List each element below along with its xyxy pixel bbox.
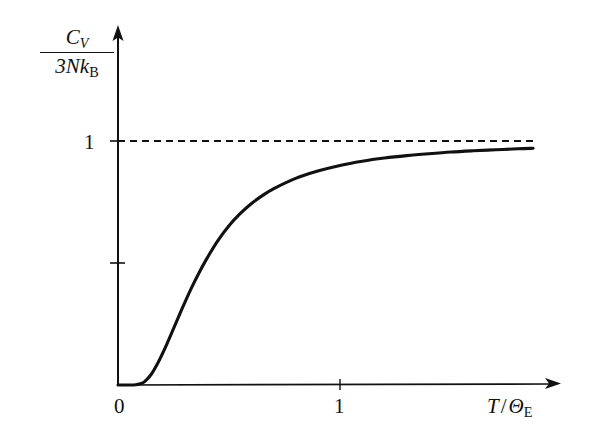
y-tick-label-1: 1 <box>84 132 95 153</box>
x-axis-label-numerator: T <box>487 394 499 418</box>
y-axis-label-numerator-subscript: V <box>80 35 89 51</box>
y-axis <box>113 25 124 385</box>
y-axis-label: CV 3NkB <box>40 27 114 79</box>
x-tick-label-0: 0 <box>114 396 125 417</box>
x-axis-label-denominator-subscript: E <box>524 404 533 420</box>
y-axis-label-denominator-subscript: B <box>89 64 99 80</box>
x-axis-label: T/ΘE <box>487 396 532 419</box>
x-axis-label-separator: / <box>499 394 509 418</box>
y-axis-label-numerator: CV <box>40 27 114 53</box>
heat-capacity-curve <box>118 148 533 385</box>
einstein-heat-capacity-figure: CV 3NkB T/ΘE 0 1 1 <box>0 0 599 440</box>
x-axis-label-denominator: Θ <box>509 394 524 418</box>
y-axis-label-denominator: 3NkB <box>40 53 114 79</box>
x-tick-label-1: 1 <box>334 396 345 417</box>
